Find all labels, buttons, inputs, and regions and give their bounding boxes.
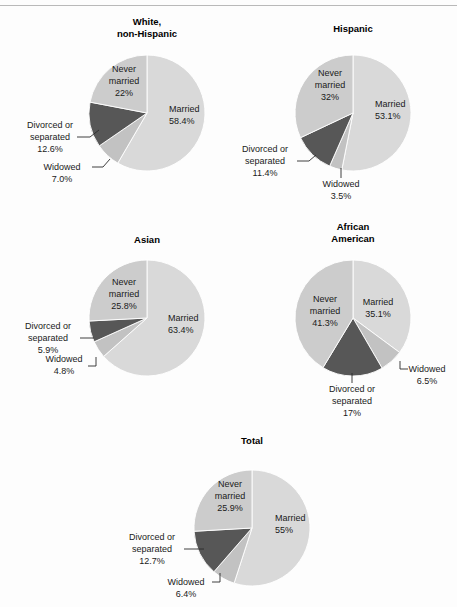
slice-label-hispanic-widowed-name: Widowed [322,179,359,189]
marital-status-pie-chart-figure: White, non-Hispanic Married 58.4% Never … [0,0,457,607]
slice-label-white-married-name: Married [169,104,200,114]
slice-label-white-divorced-name1: Divorced or [27,120,73,130]
slice-label-asian-widowed-value: 4.8% [54,366,75,376]
slice-label-asian-married-name: Married [168,313,199,323]
slice-label-hispanic-never-value: 32% [321,92,339,102]
slice-label-african-never-name2: married [310,306,341,316]
slice-label-total-never-value: 25.9% [217,503,243,513]
slice-label-white-widowed-name: Widowed [43,162,80,172]
pie-chart-asian: Asian Married 63.4% Never married 25.8% … [25,234,205,376]
slice-label-hispanic-never-name1: Never [318,68,342,78]
pie-chart-total: Total Married 55% Never married 25.9% Di… [129,435,310,599]
slice-label-hispanic-never-name2: married [315,80,346,90]
slice-label-total-married-name: Married [275,513,306,523]
slice-label-asian-widowed-name: Widowed [45,354,82,364]
pie-title-african-line1: African [337,221,370,232]
slice-label-african-divorced-name2: separated [332,396,372,406]
slice-label-asian-never-value: 25.8% [111,301,137,311]
slice-label-total-widowed-name: Widowed [167,577,204,587]
slice-label-african-never-name1: Never [313,294,337,304]
slice-label-african-married-value: 35.1% [365,309,391,319]
slice-label-asian-divorced-name1: Divorced or [25,321,71,331]
slice-label-total-never-name2: married [215,491,246,501]
slice-label-asian-never-name1: Never [112,277,136,287]
slice-label-hispanic-married-name: Married [375,99,406,109]
slice-label-african-never-value: 41.3% [312,318,338,328]
slice-label-total-widowed-value: 6.4% [176,589,197,599]
slice-label-asian-married-value: 63.4% [168,325,194,335]
slice-label-african-divorced-name1: Divorced or [329,384,375,394]
slice-label-asian-divorced-name2: separated [28,333,68,343]
pie-chart-hispanic: Hispanic Married 53.1% Never married 32%… [242,23,411,201]
pie-chart-white-non-hispanic: White, non-Hispanic Married 58.4% Never … [27,16,205,184]
pie-title-white-line1: White, [133,16,162,27]
slice-label-white-divorced-name2: separated [30,132,70,142]
slice-label-white-married-value: 58.4% [169,116,195,126]
slice-label-total-divorced-name1: Divorced or [129,532,175,542]
slice-label-asian-never-name2: married [109,289,140,299]
slice-label-total-never-name1: Never [218,479,242,489]
pie-title-african-line2: American [331,233,374,244]
slice-label-hispanic-divorced-value: 11.4% [253,168,278,178]
slice-label-white-never-name1: Never [112,64,136,74]
slice-label-african-widowed-name: Widowed [408,364,445,374]
slice-label-hispanic-divorced-name1: Divorced or [242,144,288,154]
leader-line-african-widowed [400,361,408,369]
slice-label-white-divorced-value: 12.6% [37,144,63,154]
slice-label-african-married-name: Married [363,297,394,307]
leader-line-asian-widowed [88,357,96,366]
slice-label-african-divorced-value: 17% [343,408,361,418]
slice-label-african-widowed-value: 6.5% [417,376,438,386]
slice-label-total-divorced-name2: separated [132,544,172,554]
pie-title-hispanic-line1: Hispanic [333,23,373,34]
leader-line-white-widowed [92,159,110,167]
slice-label-total-divorced-value: 12.7% [139,556,165,566]
slice-label-white-widowed-value: 7.0% [52,174,73,184]
slice-label-hispanic-divorced-name2: separated [245,156,285,166]
pie-title-asian-line1: Asian [134,234,160,245]
slice-label-total-married-value: 55% [275,525,293,535]
slice-label-hispanic-married-value: 53.1% [375,111,401,121]
slice-label-white-never-name2: married [109,76,140,86]
slice-label-white-never-value: 22% [115,88,133,98]
pie-title-white-line2: non-Hispanic [117,28,177,39]
slice-label-hispanic-widowed-value: 3.5% [331,191,352,201]
pie-title-total-line1: Total [241,435,263,446]
pie-chart-african-american: African American Married 35.1% Never mar… [295,221,446,418]
